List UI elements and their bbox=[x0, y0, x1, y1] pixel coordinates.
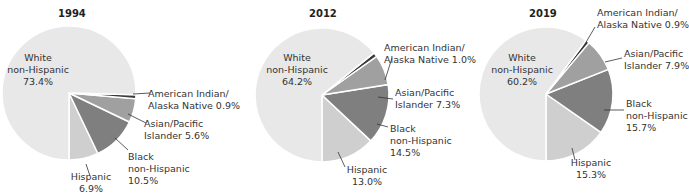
label-pct: 15.3% bbox=[566, 169, 616, 181]
label-line: American Indian/ bbox=[597, 7, 689, 19]
label-line: non-Hispanic bbox=[3, 64, 73, 76]
label-line: Alaska Native 0.9% bbox=[597, 19, 689, 31]
label-hispanic: Hispanic 13.0% bbox=[342, 164, 392, 188]
label-black: Black non-Hispanic 10.5% bbox=[128, 151, 190, 187]
label-black: Black non-Hispanic 14.5% bbox=[390, 123, 452, 159]
label-pct: 13.0% bbox=[342, 176, 392, 188]
label-white: White non-Hispanic 73.4% bbox=[3, 52, 73, 88]
label-black: Black non-Hispanic 15.7% bbox=[626, 98, 688, 134]
label-line: non-Hispanic bbox=[626, 110, 688, 122]
pie-2012 bbox=[255, 28, 393, 167]
label-white: White non-Hispanic 60.2% bbox=[487, 52, 557, 88]
label-pct: 73.4% bbox=[3, 76, 73, 88]
label-line: White bbox=[3, 52, 73, 64]
label-line: White bbox=[262, 52, 332, 64]
chart-title: 1994 bbox=[58, 8, 86, 19]
label-american-indian: American Indian/ Alaska Native 0.9% bbox=[597, 7, 689, 31]
label-line: non-Hispanic bbox=[262, 64, 332, 76]
label-hispanic: Hispanic 15.3% bbox=[566, 157, 616, 181]
label-line: White bbox=[487, 52, 557, 64]
label-hispanic: Hispanic 6.9% bbox=[68, 171, 114, 195]
label-line: Black bbox=[626, 98, 688, 110]
label-line: non-Hispanic bbox=[487, 64, 557, 76]
label-american-indian: American Indian/ Alaska Native 1.0% bbox=[384, 42, 476, 66]
label-line: Black bbox=[128, 151, 190, 163]
label-asian: Asian/Pacific Islander 5.6% bbox=[144, 118, 209, 142]
label-pct: 60.2% bbox=[487, 76, 557, 88]
pie-2019 bbox=[479, 27, 624, 161]
label-line: Asian/Pacific bbox=[624, 48, 689, 60]
chart-title: 2012 bbox=[309, 8, 337, 19]
label-asian: Asian/Pacific Islander 7.3% bbox=[395, 87, 460, 111]
chart-title: 2019 bbox=[529, 8, 557, 19]
label-line: American Indian/ bbox=[384, 42, 476, 54]
label-line: non-Hispanic bbox=[128, 163, 190, 175]
label-asian: Asian/Pacific Islander 7.9% bbox=[624, 48, 689, 72]
label-line: Alaska Native 0.9% bbox=[148, 100, 240, 112]
label-white: White non-Hispanic 64.2% bbox=[262, 52, 332, 88]
leader-line bbox=[605, 58, 622, 62]
label-pct: 64.2% bbox=[262, 76, 332, 88]
label-line: Asian/Pacific bbox=[144, 118, 209, 130]
label-line: Hispanic bbox=[342, 164, 392, 176]
label-line: non-Hispanic bbox=[390, 135, 452, 147]
label-pct: 6.9% bbox=[68, 183, 114, 195]
label-line: Black bbox=[390, 123, 452, 135]
label-pct: 14.5% bbox=[390, 147, 452, 159]
label-american-indian: American Indian/ Alaska Native 0.9% bbox=[148, 88, 240, 112]
leader-line bbox=[585, 27, 595, 44]
label-pct: 15.7% bbox=[626, 122, 688, 134]
label-line: Alaska Native 1.0% bbox=[384, 54, 476, 66]
leader-line bbox=[115, 138, 128, 150]
label-pct: 10.5% bbox=[128, 175, 190, 187]
label-line: Islander 7.9% bbox=[624, 60, 689, 72]
label-line: Hispanic bbox=[566, 157, 616, 169]
label-line: Islander 7.3% bbox=[395, 99, 460, 111]
label-line: Islander 5.6% bbox=[144, 130, 209, 142]
label-line: Hispanic bbox=[68, 171, 114, 183]
label-line: American Indian/ bbox=[148, 88, 240, 100]
label-line: Asian/Pacific bbox=[395, 87, 460, 99]
